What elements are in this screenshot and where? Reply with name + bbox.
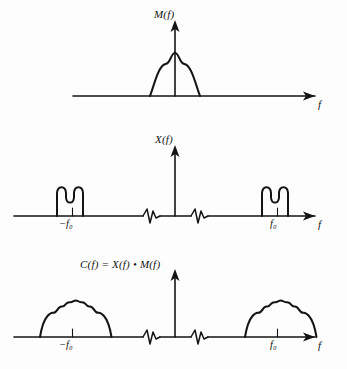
c-lobe-neg-f0 (40, 301, 112, 337)
panel-x-spectrum: X(f) −f₀ f₀ f (0, 125, 347, 250)
axis-label-c-of-f: C(f) = X(f) • M(f) (80, 258, 160, 270)
tick-label-neg-f0-c: −f₀ (59, 339, 73, 350)
tick-label-pos-f0-c: f₀ (270, 339, 277, 350)
tick-label-pos-f0-x: f₀ (270, 218, 277, 229)
spectrum-figure: M(f) f (0, 0, 347, 369)
c-lobe-pos-f0 (245, 301, 317, 337)
axis-break-right-c (191, 330, 208, 344)
axis-label-m-of-f: M(f) (154, 8, 174, 20)
x-block-neg-f0 (57, 187, 83, 216)
axis-break-left-x (143, 209, 160, 223)
axis-label-x-of-f: X(f) (155, 133, 173, 145)
panel-m-spectrum: M(f) f (0, 0, 347, 125)
axis-break-right-x (191, 209, 208, 223)
tick-label-neg-f0-x: −f₀ (59, 218, 73, 229)
axis-label-f-c: f (318, 339, 321, 351)
x-block-pos-f0 (262, 187, 288, 216)
panel-c-spectrum: C(f) = X(f) • M(f) −f₀ f₀ f (0, 250, 347, 369)
axis-label-f-m: f (318, 98, 321, 110)
axis-break-left-c (143, 330, 160, 344)
axis-label-f-x: f (318, 218, 321, 230)
